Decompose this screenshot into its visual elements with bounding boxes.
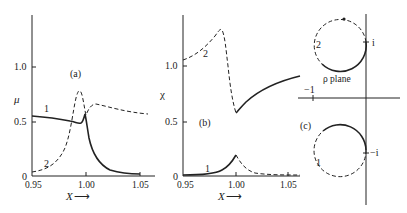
panel-c-tick-minus-i: −i [370, 148, 378, 158]
panel-b-xtick-1-05: 1.05 [280, 180, 297, 190]
panel-c-plane-label: ρ plane [323, 74, 351, 84]
panel-c-curve-label-1: 1 [316, 158, 321, 168]
panel-c-circle-2-marker [342, 17, 345, 20]
panel-c-curve-label-2: 2 [316, 40, 321, 50]
panel-c-axes [298, 14, 400, 205]
panel-a-arrow-icon: ⟶ [74, 191, 90, 201]
panel-c-circle-2-dashed [314, 19, 366, 64]
panel-a-curve-label-2: 2 [44, 159, 49, 169]
panel-b-label: (b) [199, 118, 211, 128]
panel-b-curve-label-1: 1 [205, 164, 210, 174]
panel-a-label: (a) [70, 69, 81, 79]
panel-b-curve-1-dashed [236, 155, 300, 175]
panel-a-ytick-1-0: 1.0 [14, 62, 27, 72]
panel-b-xtick-1-00: 1.00 [228, 180, 245, 190]
panel-b-ytick-0-5: 0.5 [165, 117, 178, 127]
panel-b-ylabel: χ [160, 89, 165, 99]
panel-c-tick-minus1: −1 [304, 85, 315, 95]
figure-canvas [0, 0, 407, 213]
panel-a-curve-label-1: 1 [44, 104, 49, 114]
panel-c-circle-1-solid [323, 125, 366, 150]
panel-c-label: (c) [300, 121, 311, 131]
panel-b-curve-2-solid [236, 76, 300, 113]
panel-c-tick-i: i [372, 38, 375, 48]
panel-a-xtick-1-05: 1.05 [132, 180, 149, 190]
panel-a-xtick-0-95: 0.95 [25, 180, 42, 190]
panel-b-curve-2-dashed [183, 29, 236, 113]
panel-a-ylabel: μ [14, 94, 20, 104]
panel-b-axes [183, 15, 300, 176]
panel-a-curve-2 [32, 91, 148, 172]
panel-a-xtick-1-00: 1.00 [78, 180, 95, 190]
panel-a-ytick-0-5: 0.5 [14, 117, 27, 127]
panel-c-circle-2-solid [322, 42, 366, 71]
panel-b-xtick-0-95: 0.95 [177, 180, 194, 190]
panel-b-ytick-1-0: 1.0 [165, 61, 178, 71]
panel-c-circle-1-dashed [314, 131, 366, 177]
panel-a-xlabel: X [66, 191, 73, 201]
panel-b-arrow-icon: ⟶ [226, 191, 242, 201]
panel-b-xlabel: X [218, 191, 225, 201]
panel-b-curve-label-2: 2 [203, 49, 208, 59]
